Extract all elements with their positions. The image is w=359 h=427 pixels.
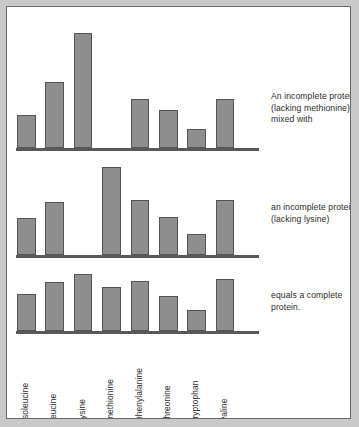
caption-complete-protein: equals a complete protein. bbox=[271, 290, 351, 313]
chart-2-baseline bbox=[16, 255, 259, 258]
axis-label-lysine: lysine bbox=[77, 399, 87, 419]
bar-valine bbox=[216, 99, 235, 148]
bar-methionine bbox=[102, 167, 121, 255]
chart-complete-protein bbox=[16, 270, 259, 334]
axis-label-tryptophan: tryptophan bbox=[190, 380, 200, 419]
axis-label-isoleucine: isoleucine bbox=[20, 383, 30, 419]
bar-tryptophan bbox=[187, 310, 206, 331]
bar-valine bbox=[216, 279, 235, 331]
chart-1-baseline bbox=[16, 148, 259, 151]
caption-lacking-methionine: An incomplete protein (lacking methionin… bbox=[271, 91, 351, 126]
axis-label-leucine: leucine bbox=[48, 394, 58, 419]
bar-leucine bbox=[45, 282, 64, 331]
bar-leucine bbox=[45, 202, 64, 255]
chart-2-bars bbox=[16, 159, 259, 255]
bar-phenylalanine bbox=[131, 281, 150, 331]
bar-threonine bbox=[159, 217, 178, 255]
chart-3-bars bbox=[16, 267, 259, 331]
bar-tryptophan bbox=[187, 129, 206, 148]
bar-valine bbox=[216, 200, 235, 255]
axis-category-labels: isoleucineleucinelysinemethioninephenyla… bbox=[16, 337, 259, 419]
axis-label-threonine: threonine bbox=[162, 385, 172, 419]
bar-lysine bbox=[74, 274, 93, 331]
bar-isoleucine bbox=[17, 115, 36, 148]
figure-panel: An incomplete protein (lacking methionin… bbox=[6, 6, 351, 419]
bar-phenylalanine bbox=[131, 99, 150, 148]
bar-threonine bbox=[159, 110, 178, 148]
chart-3-baseline bbox=[16, 331, 259, 334]
chart-lacking-lysine bbox=[16, 162, 259, 258]
chart-lacking-methionine bbox=[16, 29, 259, 151]
bar-tryptophan bbox=[187, 234, 206, 255]
bar-phenylalanine bbox=[131, 200, 150, 255]
bar-isoleucine bbox=[17, 218, 36, 255]
bar-lysine bbox=[74, 33, 93, 148]
bar-leucine bbox=[45, 82, 64, 148]
chart-1-bars bbox=[16, 26, 259, 148]
axis-label-phenylalanine: phenylalanine bbox=[134, 368, 144, 419]
bar-isoleucine bbox=[17, 294, 36, 331]
bar-methionine bbox=[102, 287, 121, 331]
bar-threonine bbox=[159, 296, 178, 331]
axis-label-methionine: methionine bbox=[105, 379, 115, 419]
axis-label-valine: valine bbox=[219, 399, 229, 419]
caption-lacking-lysine: an incomplete protein (lacking lysine) bbox=[271, 202, 351, 225]
